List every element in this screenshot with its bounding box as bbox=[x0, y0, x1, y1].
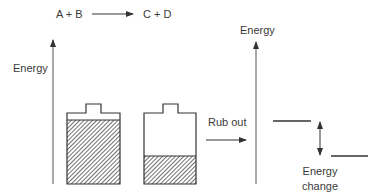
energy-change-label-line2: change bbox=[302, 180, 338, 192]
right-axis-label: Energy bbox=[240, 24, 275, 36]
rub-out-label: Rub out bbox=[208, 116, 247, 128]
energy-diagram: A + B C + D Energy Rub out Energy Energy… bbox=[0, 0, 387, 196]
reaction-equation: A + B C + D bbox=[56, 8, 171, 20]
energy-change-label-line1: Energy bbox=[303, 165, 338, 177]
left-energy-axis: Energy bbox=[13, 40, 53, 184]
rub-out-process: Rub out bbox=[206, 116, 247, 140]
battery-discharged bbox=[144, 104, 196, 184]
battery-discharged-fill bbox=[144, 156, 196, 184]
energy-levels: Energy change bbox=[273, 121, 368, 192]
right-energy-axis: Energy bbox=[240, 24, 275, 184]
battery-charged bbox=[67, 104, 120, 184]
products-label: C + D bbox=[143, 8, 171, 20]
battery-charged-fill bbox=[67, 120, 120, 184]
left-axis-label: Energy bbox=[13, 62, 48, 74]
reactants-label: A + B bbox=[56, 8, 83, 20]
